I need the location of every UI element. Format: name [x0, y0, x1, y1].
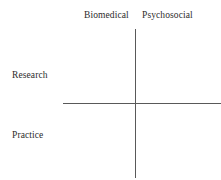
quadrant-diagram: Biomedical Psychosocial Research Practic… — [0, 0, 221, 180]
axis-label-research: Research — [12, 70, 48, 81]
axis-label-psychosocial: Psychosocial — [142, 10, 193, 21]
horizontal-axis-line — [63, 103, 221, 104]
axis-label-practice: Practice — [12, 130, 43, 141]
axis-label-biomedical: Biomedical — [84, 10, 129, 21]
